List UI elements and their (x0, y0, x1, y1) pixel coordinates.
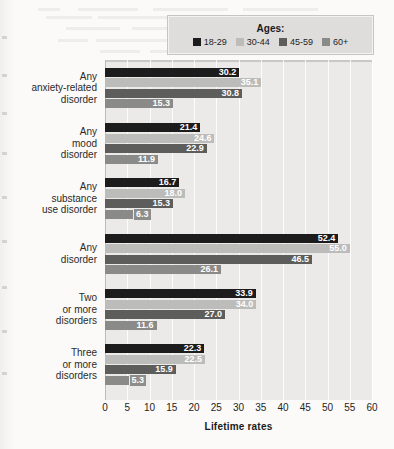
gridline (372, 60, 373, 400)
bar: 34.0 (105, 300, 256, 309)
bar-value-label: 22.5 (183, 354, 205, 365)
legend-item-18-29: 18-29 (193, 37, 227, 47)
legend-item-60plus: 60+ (322, 37, 348, 47)
category-label-line: Any (0, 126, 97, 138)
legend-items: 18-2930-4445-5960+ (193, 37, 348, 47)
legend-item-45-59: 45-59 (279, 37, 313, 47)
bar-value-label: 35.1 (239, 77, 261, 88)
bar-groups: 30.235.130.815.321.424.622.911.916.718.0… (105, 60, 372, 400)
category-label-line: disorder (0, 94, 97, 106)
x-tick-label: 0 (102, 402, 108, 413)
bar: 5.3 (105, 376, 129, 385)
legend-item-label: 45-59 (290, 37, 313, 47)
bar-value-label: 22.9 (184, 143, 206, 154)
bar: 22.9 (105, 144, 207, 153)
bar-value-label: 52.4 (316, 233, 338, 244)
bar-group: 16.718.015.36.3 (105, 178, 372, 219)
x-tick-label: 45 (300, 402, 311, 413)
bar-value-label: 21.4 (178, 122, 200, 133)
bar: 55.0 (105, 244, 350, 253)
bar-value-label: 15.3 (151, 98, 173, 109)
x-tick-label: 60 (366, 402, 377, 413)
bar-value-label: 55.0 (327, 243, 349, 254)
x-tick-label: 25 (211, 402, 222, 413)
category-label-line: Any (0, 242, 97, 254)
x-tick-label: 15 (166, 402, 177, 413)
category-label: Anymooddisorder (0, 126, 97, 161)
bar-value-label: 34.0 (234, 299, 256, 310)
bar: 26.1 (105, 265, 221, 274)
category-label: Anysubstanceuse disorder (0, 181, 97, 216)
bar-group: 22.322.515.95.3 (105, 344, 372, 385)
bar-value-label: 24.6 (192, 133, 214, 144)
bar: 11.6 (105, 321, 157, 330)
x-tick-label: 30 (233, 402, 244, 413)
x-tick-label: 55 (344, 402, 355, 413)
bar-value-label: 18.0 (163, 188, 185, 199)
x-tick-label: 40 (277, 402, 288, 413)
legend-title: Ages: (257, 23, 285, 35)
bar: 24.6 (105, 134, 214, 143)
category-label-line: Any (0, 181, 97, 193)
bar: 52.4 (105, 234, 338, 243)
bar-value-label: 15.9 (153, 364, 175, 375)
plot-area: 30.235.130.815.321.424.622.911.916.718.0… (105, 60, 372, 400)
bar: 15.3 (105, 99, 173, 108)
category-label: Anydisorder (0, 242, 97, 265)
x-tick-label: 50 (322, 402, 333, 413)
bar-value-label: 6.3 (134, 209, 151, 220)
category-label-line: Three (0, 347, 97, 359)
bar-value-label: 33.9 (233, 288, 255, 299)
bar-group: 52.455.046.526.1 (105, 234, 372, 275)
bar: 30.2 (105, 68, 239, 77)
category-label-line: disorder (0, 254, 97, 266)
bar: 35.1 (105, 78, 261, 87)
legend-swatch-icon (193, 38, 201, 46)
legend-item-label: 60+ (333, 37, 348, 47)
bar: 11.9 (105, 155, 158, 164)
category-label: Threeor moredisorders (0, 347, 97, 382)
category-label-line: Any (0, 71, 97, 83)
bar-group: 30.235.130.815.3 (105, 68, 372, 109)
category-axis-labels: Anyanxiety-relateddisorderAnymooddisorde… (0, 60, 101, 400)
category-label-line: substance (0, 193, 97, 205)
category-label: Anyanxiety-relateddisorder (0, 71, 97, 106)
bar-value-label: 30.8 (220, 88, 242, 99)
bar: 22.5 (105, 355, 205, 364)
bar: 6.3 (105, 210, 133, 219)
bar: 16.7 (105, 178, 179, 187)
bar-value-label: 11.9 (136, 154, 157, 165)
legend-swatch-icon (279, 38, 287, 46)
category-label-line: disorders (0, 370, 97, 382)
bar: 33.9 (105, 289, 256, 298)
value-axis-ticks: 051015202530354045505560 (105, 402, 372, 416)
bar-value-label: 22.3 (182, 343, 204, 354)
category-label-line: use disorder (0, 204, 97, 216)
bar-group: 21.424.622.911.9 (105, 123, 372, 164)
bar: 15.3 (105, 199, 173, 208)
chart-page: Ages: 18-2930-4445-5960+ Anyanxiety-rela… (0, 0, 394, 449)
x-tick-label: 35 (255, 402, 266, 413)
category-label-line: Two (0, 292, 97, 304)
category-label-line: anxiety-related (0, 82, 97, 94)
legend-item-label: 30-44 (247, 37, 270, 47)
chart-legend: Ages: 18-2930-4445-5960+ (168, 16, 373, 54)
bar: 27.0 (105, 310, 225, 319)
bar-value-label: 30.2 (217, 67, 239, 78)
category-label-line: disorders (0, 315, 97, 327)
category-label-line: or more (0, 304, 97, 316)
legend-swatch-icon (322, 38, 330, 46)
bar-value-label: 27.0 (203, 309, 225, 320)
bar: 21.4 (105, 123, 200, 132)
bar-value-label: 46.5 (289, 254, 311, 265)
category-label: Twoor moredisorders (0, 292, 97, 327)
x-axis-title: Lifetime rates (105, 421, 372, 432)
legend-item-30-44: 30-44 (236, 37, 270, 47)
x-tick-label: 20 (188, 402, 199, 413)
bar-value-label: 11.6 (135, 320, 156, 331)
x-tick-label: 10 (144, 402, 155, 413)
bar-value-label: 16.7 (157, 177, 179, 188)
page-edge-mark (2, 36, 7, 39)
category-label-line: mood (0, 138, 97, 150)
bar: 15.9 (105, 365, 176, 374)
